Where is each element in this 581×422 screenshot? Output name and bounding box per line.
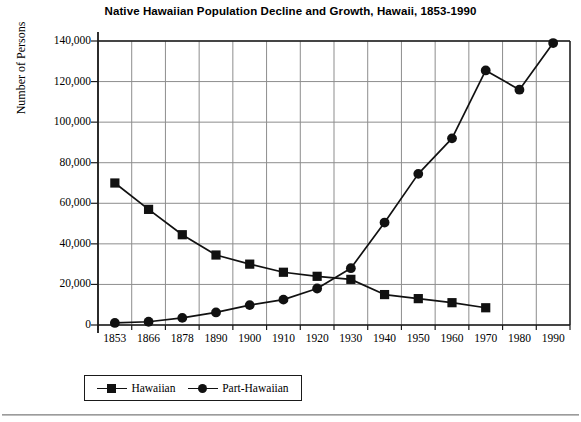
datapoint-part-hawaiian-1910 (279, 295, 289, 305)
datapoint-hawaiian-1960 (447, 298, 456, 307)
datapoint-part-hawaiian-1866 (144, 317, 154, 327)
legend-marker-circle-icon (188, 382, 218, 394)
legend-swatch (198, 384, 207, 393)
datapoint-part-hawaiian-1990 (548, 38, 558, 48)
datapoint-part-hawaiian-1930 (346, 263, 356, 273)
datapoint-part-hawaiian-1980 (515, 85, 525, 95)
legend-entry-hawaiian[interactable]: Hawaiian (97, 382, 175, 394)
legend-marker-square-icon (97, 382, 127, 394)
datapoint-hawaiian-1853 (110, 178, 119, 187)
datapoint-hawaiian-1930 (346, 275, 355, 284)
datapoint-part-hawaiian-1960 (447, 133, 457, 143)
legend-label: Hawaiian (131, 382, 175, 394)
datapoint-hawaiian-1950 (414, 294, 423, 303)
datapoint-part-hawaiian-1890 (211, 308, 221, 318)
datapoint-hawaiian-1900 (245, 260, 254, 269)
datapoint-part-hawaiian-1950 (413, 169, 423, 179)
datapoint-hawaiian-1866 (144, 205, 153, 214)
datapoint-part-hawaiian-1970 (481, 66, 491, 76)
legend-swatch (107, 384, 116, 393)
chart-figure: Native Hawaiian Population Decline and G… (0, 0, 581, 422)
datapoint-hawaiian-1920 (313, 272, 322, 281)
datapoint-hawaiian-1878 (178, 230, 187, 239)
datapoint-hawaiian-1940 (380, 290, 389, 299)
chart-legend: HawaiianPart-Hawaiian (84, 375, 302, 401)
datapoint-hawaiian-1890 (211, 250, 220, 259)
datapoint-part-hawaiian-1920 (312, 284, 322, 294)
plot-area (0, 0, 581, 422)
legend-label: Part-Hawaiian (222, 382, 288, 394)
datapoint-hawaiian-1910 (279, 268, 288, 277)
datapoint-part-hawaiian-1853 (110, 318, 120, 328)
datapoint-part-hawaiian-1878 (177, 313, 187, 323)
legend-entry-part-hawaiian[interactable]: Part-Hawaiian (188, 382, 288, 394)
datapoint-part-hawaiian-1940 (380, 218, 390, 228)
datapoint-hawaiian-1970 (481, 303, 490, 312)
datapoint-part-hawaiian-1900 (245, 300, 255, 310)
footer-divider (2, 414, 579, 416)
